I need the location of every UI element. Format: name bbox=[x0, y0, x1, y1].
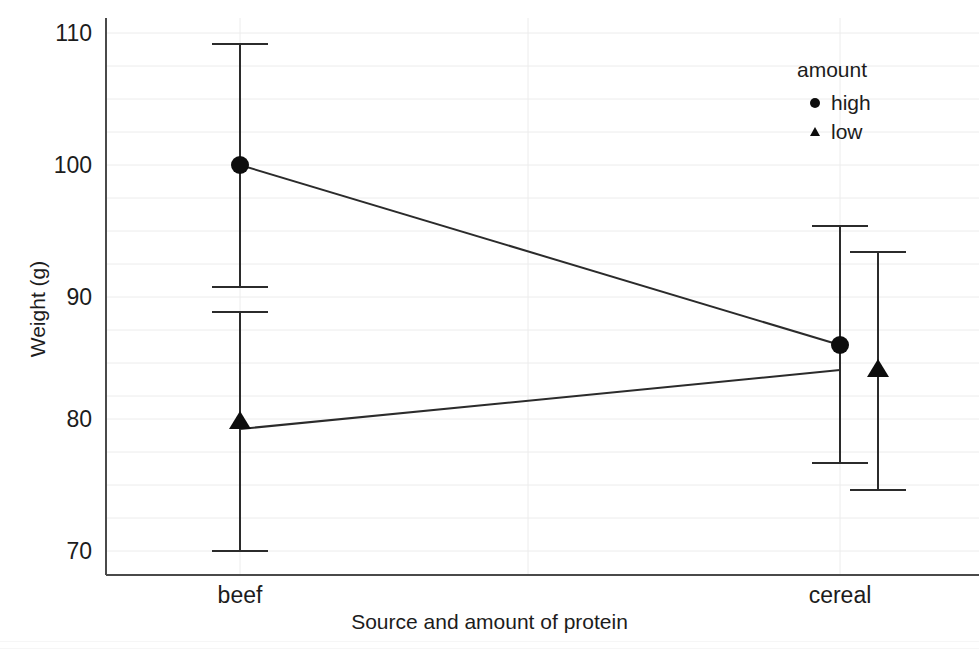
x-tick-label-beef: beef bbox=[180, 582, 300, 609]
y-tick-label-100: 100 bbox=[36, 152, 92, 179]
legend-label-high: high bbox=[831, 91, 871, 115]
scan-noise-band bbox=[0, 641, 979, 642]
x-tick-label-cereal: cereal bbox=[780, 582, 900, 609]
datapoint-high-beef bbox=[231, 156, 249, 174]
datapoint-high-cereal bbox=[831, 336, 849, 354]
datapoint-low-cereal bbox=[867, 359, 889, 377]
legend: amount high low bbox=[797, 58, 947, 146]
datapoint-low-beef bbox=[229, 411, 251, 429]
chart-figure: 110 100 90 80 70 beef cereal Source and … bbox=[0, 0, 979, 658]
legend-item-high[interactable]: high bbox=[797, 88, 947, 117]
circle-marker-icon bbox=[805, 93, 825, 113]
series-high-line bbox=[240, 165, 840, 345]
legend-label-low: low bbox=[831, 120, 863, 144]
legend-item-low[interactable]: low bbox=[797, 117, 947, 146]
y-tick-label-80: 80 bbox=[36, 406, 92, 433]
y-tick-label-70: 70 bbox=[36, 538, 92, 565]
series-low-line bbox=[240, 370, 840, 429]
y-axis-title: Weight (g) bbox=[26, 209, 50, 409]
errorbar-low-beef bbox=[212, 312, 268, 551]
y-tick-label-110: 110 bbox=[36, 20, 92, 47]
legend-title: amount bbox=[797, 58, 947, 82]
scan-noise-band bbox=[0, 648, 979, 649]
triangle-marker-icon bbox=[805, 122, 825, 142]
x-axis-title: Source and amount of protein bbox=[0, 610, 979, 634]
